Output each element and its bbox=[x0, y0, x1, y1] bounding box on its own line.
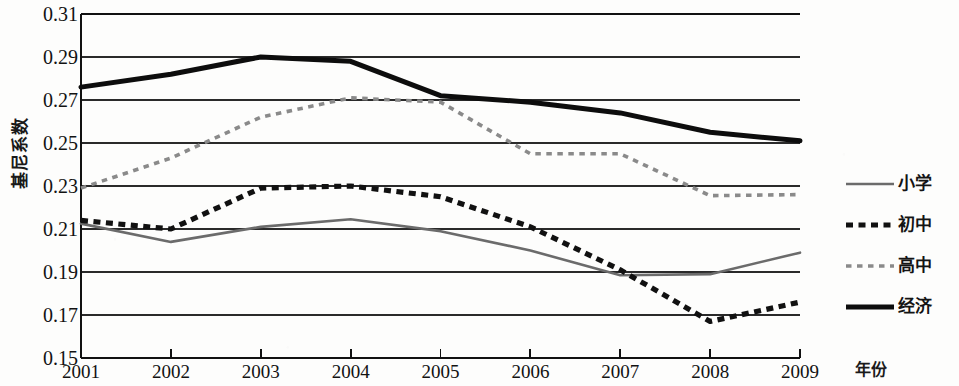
x-tick-label: 2006 bbox=[490, 362, 570, 381]
solid-thin-gray-line-icon bbox=[846, 178, 894, 190]
legend-label: 高中 bbox=[898, 257, 932, 274]
y-tick-label: 0.21 bbox=[16, 219, 78, 239]
legend-item-经济[interactable]: 经济 bbox=[846, 286, 959, 327]
y-axis-tick-labels: 0.310.290.270.250.230.210.190.170.15 bbox=[14, 0, 78, 386]
legend-label: 小学 bbox=[898, 175, 932, 192]
thick-dashed-black-line-icon bbox=[846, 219, 894, 231]
x-tick-label: 2008 bbox=[670, 362, 750, 381]
series-line-经济 bbox=[81, 57, 800, 141]
gini-coefficient-line-chart: 基尼系数 0.310.290.270.250.230.210.190.170.1… bbox=[0, 0, 959, 386]
plot-area bbox=[0, 0, 959, 386]
series-line-小学 bbox=[81, 219, 800, 275]
x-tick-label: 2009 bbox=[760, 362, 840, 381]
y-tick-label: 0.19 bbox=[16, 262, 78, 282]
legend-label: 经济 bbox=[898, 298, 932, 315]
y-tick-label: 0.29 bbox=[16, 47, 78, 67]
x-tick-label: 2005 bbox=[401, 362, 481, 381]
dotted-gray-line-icon bbox=[846, 260, 894, 272]
x-tick-label: 2001 bbox=[41, 362, 121, 381]
legend-item-高中[interactable]: 高中 bbox=[846, 245, 959, 286]
y-tick-label: 0.25 bbox=[16, 133, 78, 153]
thick-solid-black-line-icon bbox=[846, 301, 894, 313]
x-tick-label: 2007 bbox=[580, 362, 660, 381]
legend-item-小学[interactable]: 小学 bbox=[846, 163, 959, 204]
legend-item-初中[interactable]: 初中 bbox=[846, 204, 959, 245]
legend-label: 初中 bbox=[898, 216, 932, 233]
chart-legend: 小学初中高中经济 bbox=[846, 163, 959, 327]
x-tick-label: 2004 bbox=[311, 362, 391, 381]
x-tick-label: 2003 bbox=[221, 362, 301, 381]
series-line-高中 bbox=[81, 98, 800, 196]
series-line-初中 bbox=[81, 186, 800, 321]
y-tick-label: 0.31 bbox=[16, 4, 78, 24]
x-tick-label: 2002 bbox=[131, 362, 211, 381]
x-axis-title: 年份 bbox=[855, 362, 887, 378]
y-tick-label: 0.17 bbox=[16, 305, 78, 325]
y-tick-label: 0.27 bbox=[16, 90, 78, 110]
x-axis-ticks bbox=[81, 349, 800, 358]
y-tick-label: 0.23 bbox=[16, 176, 78, 196]
data-series-group bbox=[81, 57, 800, 321]
